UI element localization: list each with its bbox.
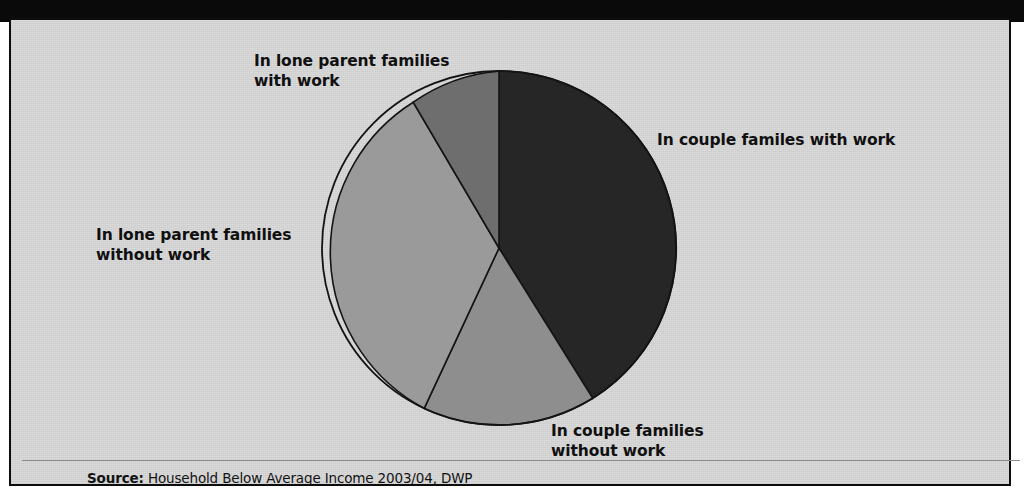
chart-panel: In lone parent families with work In cou… xyxy=(9,18,1011,486)
source-note: Source: Household Below Average Income 2… xyxy=(87,470,472,486)
pie-chart-svg xyxy=(314,63,684,433)
label-couple-without-work: In couple families without work xyxy=(551,421,811,462)
source-value: Household Below Average Income 2003/04, … xyxy=(144,470,473,486)
pie-chart xyxy=(314,63,684,433)
label-lone-parent-with-work: In lone parent families with work xyxy=(254,51,534,92)
source-divider xyxy=(22,460,1020,461)
label-couple-with-work: In couple familes with work xyxy=(657,130,977,150)
source-label: Source: xyxy=(87,470,144,486)
label-lone-parent-without-work: In lone parent families without work xyxy=(96,225,346,266)
figure-root: In lone parent families with work In cou… xyxy=(0,0,1024,494)
